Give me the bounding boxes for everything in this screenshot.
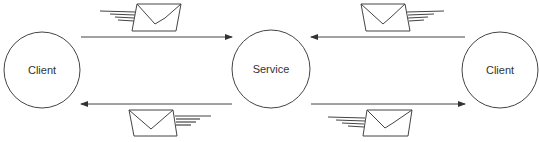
client-right-label: Client <box>486 64 514 76</box>
envelope-icon <box>129 110 211 136</box>
client-right-node: Client <box>462 32 538 108</box>
envelope-icon <box>328 110 412 136</box>
service-label: Service <box>253 63 290 75</box>
service-node: Service <box>232 30 310 108</box>
client-service-diagram: Client Service Client <box>0 0 539 142</box>
client-left-node: Client <box>4 32 80 108</box>
speed-lines-icon <box>100 11 135 21</box>
speed-lines-icon <box>407 11 444 21</box>
speed-lines-icon <box>175 116 211 125</box>
envelope-icon <box>361 4 444 31</box>
client-left-label: Client <box>28 64 56 76</box>
speed-lines-icon <box>328 117 365 127</box>
envelope-icon <box>100 4 181 31</box>
